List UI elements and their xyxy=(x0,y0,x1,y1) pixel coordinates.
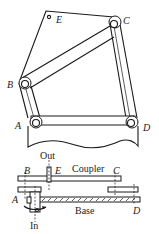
joint-d xyxy=(126,116,138,128)
link-cd-side xyxy=(108,187,138,192)
coupler-bar xyxy=(18,176,121,181)
link-cd xyxy=(110,19,137,118)
link-bc xyxy=(22,26,114,88)
label-out: Out xyxy=(40,150,55,161)
link-ad xyxy=(31,116,135,125)
label-c: C xyxy=(123,15,130,26)
label-b-side: B xyxy=(24,165,30,176)
link-ab-side xyxy=(18,187,41,192)
joint-b xyxy=(19,77,31,89)
label-a-side: A xyxy=(11,194,19,205)
base-bar xyxy=(30,197,140,202)
label-b: B xyxy=(7,79,13,90)
joint-c xyxy=(109,16,121,28)
side-view: Out B E Coupler C A Base D In xyxy=(11,150,141,231)
label-coupler: Coupler xyxy=(72,163,105,174)
top-view: E C B A D xyxy=(7,11,151,148)
label-e-side: E xyxy=(54,165,61,176)
point-e-hole xyxy=(47,15,50,18)
joint-a xyxy=(30,116,42,128)
label-e: E xyxy=(55,14,62,25)
label-c-side: C xyxy=(113,165,120,176)
label-a: A xyxy=(14,120,22,131)
label-in: In xyxy=(30,220,38,231)
label-d-side: D xyxy=(132,205,141,216)
label-base: Base xyxy=(75,205,95,216)
fourbar-linkage-diagram: E C B A D xyxy=(0,0,159,234)
label-d: D xyxy=(142,122,151,133)
ground-base xyxy=(28,126,138,148)
